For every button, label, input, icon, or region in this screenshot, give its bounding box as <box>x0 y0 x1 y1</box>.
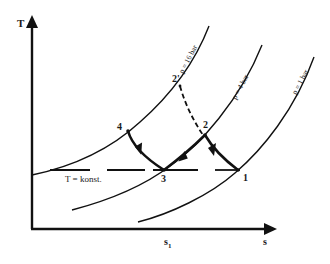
point-label-2: 2 <box>203 119 208 130</box>
s-axis-arrow-icon <box>264 223 277 235</box>
isobars <box>32 26 314 222</box>
ts-diagram: T s s1 p = 16 bar p = 4 bar p = 1 bar T … <box>0 0 330 264</box>
point-label-1: 1 <box>243 172 248 183</box>
s1-tick-label: s1 <box>164 236 172 250</box>
process-path <box>128 131 238 170</box>
s-axis-label: s <box>263 236 267 247</box>
isobar-label-16: p = 16 bar <box>177 43 200 75</box>
isotherm-label: T = konst. <box>65 174 102 184</box>
isentropic-compression-dashed <box>180 86 203 135</box>
isobar-1-bar <box>138 57 314 222</box>
process-1-2 <box>205 135 238 170</box>
t-axis-label: T <box>17 17 25 29</box>
point-label-3: 3 <box>161 173 166 184</box>
isobar-label-1: p = 1 bar <box>290 67 311 95</box>
isobar-label-4: p = 4 bar <box>230 72 251 100</box>
point-label-4: 4 <box>117 121 122 132</box>
isobar-16-bar <box>32 26 209 175</box>
isobar-4-bar <box>72 45 262 210</box>
point-label-2prime: 2' <box>172 73 180 84</box>
axes: T s s1 <box>17 15 277 250</box>
t-axis-arrow-icon <box>26 15 38 28</box>
process-3-4 <box>128 131 164 170</box>
